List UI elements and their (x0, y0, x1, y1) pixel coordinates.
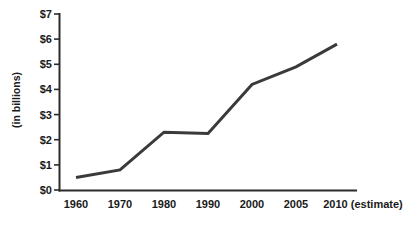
x-tick-label-1970: 1970 (108, 198, 132, 210)
y-tick-label-7: $7 (40, 8, 52, 20)
x-tick-label-1980: 1980 (152, 198, 176, 210)
x-tick-label-2000: 2000 (240, 198, 264, 210)
line-chart-figure: (in billions) $0 $1 $2 $3 $4 $5 $6 $7 19… (0, 0, 413, 227)
y-tick-label-5: $5 (40, 58, 52, 70)
chart-canvas: (in billions) $0 $1 $2 $3 $4 $5 $6 $7 19… (0, 0, 413, 227)
y-tick-label-2: $2 (40, 134, 52, 146)
y-tick-label-3: $3 (40, 109, 52, 121)
y-axis-title: (in billions) (10, 72, 22, 128)
x-tick-label-2005: 2005 (284, 198, 308, 210)
y-tick-label-4: $4 (40, 83, 53, 95)
x-tick-label-2010-estimate: 2010 (estimate) (323, 198, 403, 210)
y-tick-label-1: $1 (40, 159, 52, 171)
y-tick-label-0: $0 (40, 184, 52, 196)
x-tick-label-1990: 1990 (196, 198, 220, 210)
x-tick-label-1960: 1960 (64, 198, 88, 210)
data-series-line (76, 44, 337, 177)
y-tick-label-6: $6 (40, 33, 52, 45)
